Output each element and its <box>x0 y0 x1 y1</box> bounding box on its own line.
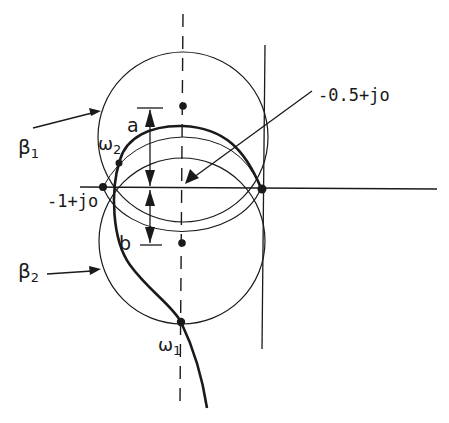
point-minus-one <box>99 183 107 191</box>
label-omega2: ω2 <box>98 133 121 157</box>
nyquist-diagram: β1 β2 ω2 ω1 a b -1+jo -0.5+jo <box>0 0 449 423</box>
nyquist-locus <box>114 126 261 408</box>
label-minus-one: -1+jo <box>47 191 98 211</box>
leader-beta2 <box>47 271 92 274</box>
arrow-minus-half-icon <box>185 169 199 184</box>
label-a: a <box>127 114 139 136</box>
point-center-lower <box>178 239 186 247</box>
dimension-a-arrow-up-icon <box>145 109 155 127</box>
point-omega2 <box>116 160 123 167</box>
label-b: b <box>119 232 131 254</box>
label-omega1: ω1 <box>158 334 181 358</box>
label-beta1: β1 <box>18 135 39 161</box>
point-omega1 <box>177 318 185 326</box>
label-beta2: β2 <box>18 259 39 285</box>
label-minus-half: -0.5+jo <box>318 85 390 105</box>
dimension-a-arrow-down-icon <box>145 170 155 186</box>
dimension-b-arrow-up-icon <box>145 190 155 206</box>
leader-beta1 <box>33 113 92 128</box>
dimension-b-arrow-down-icon <box>145 227 155 243</box>
point-center-upper <box>179 102 187 110</box>
imaginary-axis <box>262 45 265 349</box>
arrow-beta1-icon <box>89 108 101 116</box>
point-origin <box>258 185 267 194</box>
arrow-beta2-icon <box>89 266 101 275</box>
